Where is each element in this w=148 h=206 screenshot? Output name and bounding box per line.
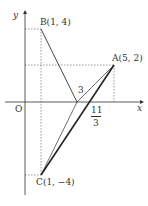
point-b-label: B(1, 4) <box>40 18 71 27</box>
intercept-frac-num: 11 <box>91 106 102 115</box>
segment-b-p <box>41 29 77 102</box>
segment-p-c <box>41 102 77 175</box>
fraction-bar <box>91 116 101 117</box>
coordinate-diagram: y x O B(1, 4) A(5, 2) C(1, −4) 3 11 3 <box>0 0 148 206</box>
intercept-3-label: 3 <box>78 86 84 95</box>
segment-a-c <box>41 65 114 175</box>
y-axis-label: y <box>13 11 18 20</box>
point-a-label: A(5, 2) <box>112 54 143 63</box>
x-axis-label: x <box>137 104 142 113</box>
diagram-svg <box>0 0 148 206</box>
y-axis-arrow-icon <box>23 10 27 14</box>
segment-p-a <box>77 65 114 102</box>
intercept-frac-den: 3 <box>93 119 99 128</box>
point-c-label: C(1, −4) <box>36 178 75 187</box>
origin-label: O <box>15 105 22 114</box>
